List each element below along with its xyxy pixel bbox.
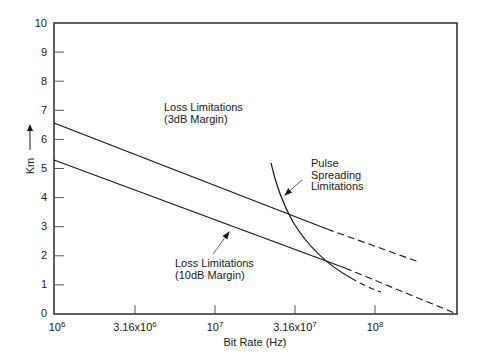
x-ticks xyxy=(135,305,375,314)
x-label-3.16e6: 3.16x106 xyxy=(113,320,157,333)
x-axis-title: Bit Rate (Hz) xyxy=(224,336,287,348)
series-pulse-dashed xyxy=(351,278,381,292)
annotation-10db-line1: Loss Limitations xyxy=(175,257,254,269)
y-label-7: 7 xyxy=(41,104,47,116)
annotation-pulse-line1: Pulse xyxy=(311,157,339,169)
x-label-1e7: 107 xyxy=(207,320,224,333)
y-label-1: 1 xyxy=(41,278,47,290)
series-3db-dashed xyxy=(327,229,419,262)
y-label-10: 10 xyxy=(35,17,47,29)
y-label-4: 4 xyxy=(41,191,47,203)
y-tick-labels: 10 9 8 7 6 5 4 3 2 1 0 xyxy=(35,17,47,319)
x-label-3.16e7: 3.16x107 xyxy=(273,320,317,333)
annotation-3db-line1: Loss Limitations xyxy=(164,101,243,113)
series-3db-solid xyxy=(54,123,327,229)
y-ticks xyxy=(54,52,64,285)
y-label-9: 9 xyxy=(41,46,47,58)
y-label-5: 5 xyxy=(41,162,47,174)
y-axis-title: Km xyxy=(24,158,36,175)
x-tick-labels: 106 3.16x106 107 3.16x107 108 xyxy=(49,320,384,333)
y-label-6: 6 xyxy=(41,133,47,145)
y-label-8: 8 xyxy=(41,75,47,87)
annotation-3db-line2: (3dB Margin) xyxy=(164,113,228,125)
annotation-10db-line2: (10dB Margin) xyxy=(175,269,245,281)
annotation-pulse-line3: Limitations xyxy=(311,180,364,192)
y-label-0: 0 xyxy=(41,307,47,319)
y-label-3: 3 xyxy=(41,220,47,232)
series-10db-dashed xyxy=(345,268,457,314)
annotation-10db-arrow-icon xyxy=(213,232,229,254)
annotation-pulse-arrow-icon xyxy=(285,180,302,195)
x-label-1e8: 108 xyxy=(367,320,384,333)
y-axis-arrowhead-icon xyxy=(27,124,33,131)
series-10db-solid xyxy=(54,160,345,268)
x-label-1e6: 106 xyxy=(49,320,66,333)
plot-frame xyxy=(54,23,457,314)
chart: 10 9 8 7 6 5 4 3 2 1 0 106 3.16x106 107 … xyxy=(0,0,479,363)
y-label-2: 2 xyxy=(41,249,47,261)
